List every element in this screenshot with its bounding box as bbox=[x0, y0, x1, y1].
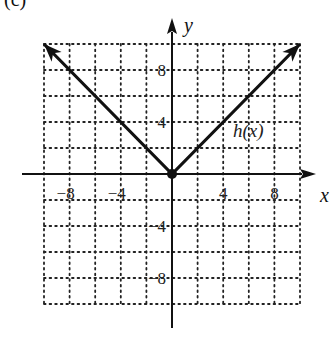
vertex-dot bbox=[167, 169, 177, 179]
y-axis-arrow-icon bbox=[167, 18, 177, 34]
x-tick-label: −4 bbox=[108, 184, 127, 203]
x-tick-label: 8 bbox=[270, 184, 279, 203]
y-axis-label: y bbox=[182, 14, 193, 37]
x-tick-label: −8 bbox=[57, 184, 75, 203]
y-tick-label: −8 bbox=[148, 269, 166, 288]
y-tick-label: 8 bbox=[158, 61, 167, 80]
function-label: h(x) bbox=[233, 120, 264, 142]
y-tick-label: −4 bbox=[148, 217, 167, 236]
x-axis-arrow-icon bbox=[300, 169, 316, 179]
x-tick-label: 4 bbox=[219, 184, 228, 203]
y-tick-label: 4 bbox=[158, 113, 167, 132]
x-axis-label: x bbox=[319, 184, 329, 206]
graph-of-h: xy −8−44884−4−8 h(x) bbox=[0, 0, 336, 342]
